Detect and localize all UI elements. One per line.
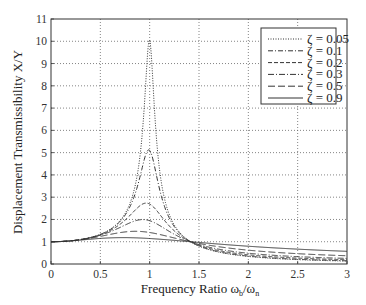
x-tick-label: 3 [344, 268, 350, 280]
y-tick-label: 3 [41, 191, 47, 203]
y-tick-label: 4 [41, 169, 47, 181]
y-tick-label: 6 [41, 124, 47, 136]
x-tick-label: 0.5 [93, 268, 108, 280]
y-axis-title: Displacement Transmissibility X/Y [10, 49, 25, 234]
y-tick-label: 8 [41, 80, 47, 92]
y-tick-label: 11 [36, 13, 47, 25]
x-tick-label: 1.5 [192, 268, 207, 280]
x-tick-label: 1 [147, 268, 153, 280]
transmissibility-chart: 00.511.522.53 01234567891011 Frequency R… [0, 0, 366, 305]
y-tick-label: 1 [41, 236, 47, 248]
x-tick-label: 2 [245, 268, 251, 280]
y-tick-label: 9 [41, 58, 47, 70]
x-axis-title: Frequency Ratio ωb/ωn [141, 281, 259, 298]
x-tick-label: 2.5 [290, 268, 305, 280]
legend: ζ = 0.05ζ = 0.1ζ = 0.2ζ = 0.3ζ = 0.5ζ = … [261, 28, 349, 105]
y-tick-label: 10 [36, 35, 48, 47]
x-tick-label: 0 [48, 268, 54, 280]
y-tick-label: 2 [41, 213, 47, 225]
y-tick-label: 0 [41, 258, 47, 270]
y-tick-label: 5 [41, 147, 47, 159]
y-tick-label: 7 [41, 102, 47, 114]
legend-label: ζ = 0.9 [307, 90, 342, 105]
series-line [51, 231, 347, 255]
